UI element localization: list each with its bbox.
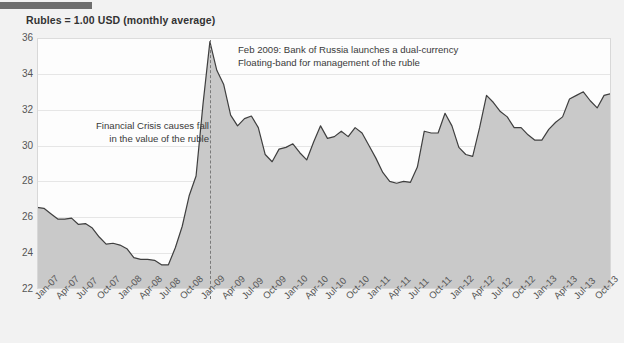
annotation-bank-of-russia: Feb 2009: Bank of Russia launches a dual… bbox=[238, 44, 458, 69]
marker-line-feb-2009 bbox=[210, 40, 211, 299]
y-tick-label: 32 bbox=[12, 105, 33, 115]
annotation-line: in the value of the ruble bbox=[0, 133, 209, 146]
chart-root: Rubles = 1.00 USD (monthly average) 2224… bbox=[0, 0, 624, 343]
y-tick-label: 34 bbox=[12, 69, 33, 79]
y-tick-label: 28 bbox=[12, 176, 33, 186]
annotation-line: Floating-band for management of the rubl… bbox=[238, 57, 458, 70]
plot-area bbox=[37, 38, 611, 289]
y-tick-label: 36 bbox=[12, 33, 33, 43]
area-chart-series bbox=[37, 38, 611, 289]
annotation-line: Feb 2009: Bank of Russia launches a dual… bbox=[238, 44, 458, 57]
y-tick-label: 22 bbox=[12, 284, 33, 294]
header-rule bbox=[0, 2, 92, 9]
page-title: Rubles = 1.00 USD (monthly average) bbox=[26, 14, 215, 26]
annotation-financial-crisis: Financial Crisis causes fallin the value… bbox=[0, 120, 209, 145]
y-tick-label: 26 bbox=[12, 212, 33, 222]
y-tick-label: 24 bbox=[12, 248, 33, 258]
annotation-line: Financial Crisis causes fall bbox=[0, 120, 209, 133]
